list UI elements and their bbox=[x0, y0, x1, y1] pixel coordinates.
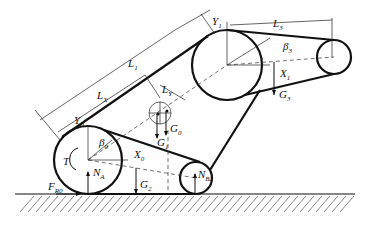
label-G3: G3 bbox=[279, 88, 291, 103]
label-beta0: β0 bbox=[98, 136, 108, 151]
mechanism-diagram: L1 LX LY L3 Y1 X1 β3 G3 Y0 X0 β0 T NA FR… bbox=[0, 0, 370, 231]
label-FR0: FR0 bbox=[47, 180, 63, 195]
label-beta3: β3 bbox=[282, 40, 292, 55]
center-of-gravity-symbol bbox=[149, 102, 171, 124]
label-Y1: Y1 bbox=[212, 15, 222, 30]
label-L1: L1 bbox=[127, 57, 138, 72]
label-T: T bbox=[63, 155, 70, 167]
label-NA: NA bbox=[92, 166, 105, 181]
label-LX: LX bbox=[96, 89, 108, 104]
label-G0: G0 bbox=[170, 122, 182, 137]
label-LY: LY bbox=[161, 83, 173, 98]
label-G2: G2 bbox=[140, 178, 152, 193]
ground bbox=[15, 194, 355, 212]
label-X0: X0 bbox=[133, 148, 145, 163]
label-L3: L3 bbox=[272, 17, 283, 32]
label-X1: X1 bbox=[279, 67, 290, 82]
